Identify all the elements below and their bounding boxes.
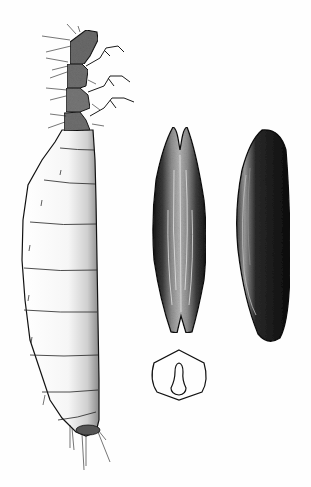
pupa-lateral-figure — [237, 130, 290, 341]
illustration-canvas — [0, 0, 311, 487]
cross-section-cavity — [171, 363, 186, 395]
pupa-ventral-body — [153, 127, 206, 333]
cross-section-outline — [152, 350, 206, 400]
larva-anal-segment — [76, 425, 100, 435]
larva-head — [70, 30, 98, 64]
larva-legs — [86, 46, 134, 116]
larva-prothorax-2 — [66, 88, 90, 112]
pupa-ventral-figure — [153, 127, 206, 333]
larva-figure — [22, 24, 134, 470]
larva-abdomen — [22, 130, 99, 436]
larva-prothorax-1 — [67, 64, 88, 88]
larva-prothorax-3 — [64, 112, 90, 131]
pupa-lateral-body — [237, 130, 290, 341]
pupa-cross-section-figure — [152, 350, 206, 400]
